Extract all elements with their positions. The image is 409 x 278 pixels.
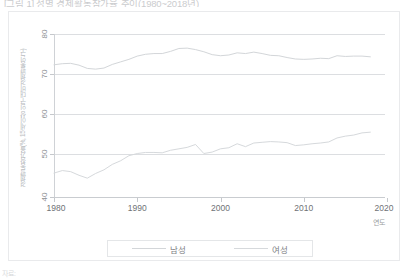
chart-figure: [그림 1] 성별 경제활동참가율 추이(1980~2018년) 경제활동참가율… [0,0,409,278]
legend-item-male[interactable]: 남성 [132,243,186,255]
legend-item-female[interactable]: 여성 [234,243,288,255]
legend-label-female: 여성 [272,243,288,255]
legend-swatch-female [234,248,268,249]
figure-border-box: 경제활동참가율(%, 15세 이상 인구 대비 경제활동인구) 80 70 60… [8,11,400,261]
line-series-male [54,48,370,69]
legend-swatch-male [132,248,166,249]
figure-footnote: 자료: [2,268,16,278]
figure-caption-top: [그림 1] 성별 경제활동참가율 추이(1980~2018년) [4,0,344,7]
plot-area: 경제활동참가율(%, 15세 이상 인구 대비 경제활동인구) 80 70 60… [9,12,399,260]
chart-legend: 남성 여성 [107,240,313,257]
line-series-female [54,132,370,178]
legend-label-male: 남성 [170,243,186,255]
series-canvas [9,12,401,262]
